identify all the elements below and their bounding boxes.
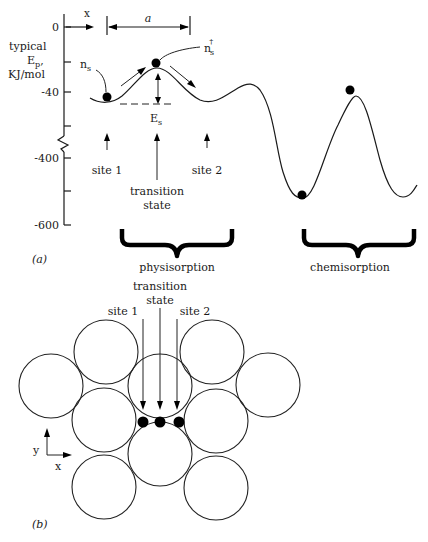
surface-atom bbox=[180, 320, 244, 384]
surface-atom bbox=[184, 456, 248, 520]
y-axis-title-line2: Ep, bbox=[27, 54, 44, 69]
potential-energy-curve bbox=[90, 68, 417, 198]
transition-state-marker: transition state bbox=[130, 133, 184, 212]
x-direction-arrow: x bbox=[66, 7, 94, 30]
arrow-up-icon bbox=[44, 428, 50, 437]
y-axis-label: y bbox=[32, 444, 40, 457]
transition-label-line2: state bbox=[146, 294, 174, 307]
y-axis: 0 -40 -400 -600 typical Ep, KJ/mol bbox=[8, 14, 71, 232]
adsorbate-leader-line bbox=[96, 70, 106, 92]
surface-atom bbox=[74, 320, 138, 384]
hop-arrow-up-shaft bbox=[121, 70, 142, 86]
arrow-down-icon bbox=[140, 401, 146, 410]
panel-b-label: (b) bbox=[32, 518, 48, 531]
adatom-site2 bbox=[174, 417, 185, 428]
arrow-down-icon bbox=[157, 401, 163, 410]
tick-label-minus40: -40 bbox=[41, 86, 59, 99]
surface-atom bbox=[72, 388, 136, 452]
tick-label-minus600: -600 bbox=[34, 219, 59, 232]
panel-a-label: (a) bbox=[32, 253, 47, 266]
arrow-right-icon bbox=[63, 452, 72, 458]
site1-label: site 1 bbox=[108, 305, 139, 318]
adatom-site1 bbox=[138, 417, 149, 428]
hop-arrow-down-shaft bbox=[170, 66, 192, 84]
tick-label-0: 0 bbox=[52, 21, 59, 34]
arrow-up-icon bbox=[155, 73, 161, 80]
chemisorption-barrier-dot bbox=[346, 86, 355, 95]
panel-a-energy-diagram: 0 -40 -400 -600 typical Ep, KJ/mol x a bbox=[8, 7, 417, 274]
adatom-transition bbox=[155, 417, 166, 428]
y-axis-title-line3: KJ/mol bbox=[8, 68, 45, 81]
arrow-up-icon bbox=[204, 133, 210, 141]
tick-label-minus400: -400 bbox=[34, 152, 59, 165]
site2-label: site 2 bbox=[180, 305, 211, 318]
adsorption-diffusion-figure: 0 -40 -400 -600 typical Ep, KJ/mol x a bbox=[0, 0, 428, 542]
lattice-spacing-indicator: a bbox=[107, 12, 190, 35]
lattice-spacing-label: a bbox=[145, 12, 152, 25]
transition-adsorbate-label: ns† bbox=[204, 37, 214, 57]
adsorbate-site1-dot bbox=[103, 93, 112, 102]
surface-atom bbox=[72, 455, 136, 519]
transition-label-line2: state bbox=[143, 199, 171, 212]
physisorption-label: physisorption bbox=[139, 261, 215, 274]
panel-b-surface-schematic: transition state site 1 site 2 bbox=[19, 280, 300, 531]
xy-axes-indicator: y x bbox=[32, 428, 72, 473]
surface-atom bbox=[184, 389, 248, 453]
transition-label-line1: transition bbox=[130, 185, 184, 198]
chemisorbed-dot bbox=[298, 191, 307, 200]
arrow-up-icon bbox=[104, 133, 110, 141]
site2-label: site 2 bbox=[192, 164, 223, 177]
arrow-down-icon bbox=[155, 97, 161, 104]
chemisorption-label: chemisorption bbox=[310, 261, 390, 274]
hop-arrow-up bbox=[121, 67, 146, 86]
surface-atom bbox=[128, 422, 192, 486]
arrow-right-icon bbox=[86, 24, 94, 30]
transition-leader-line bbox=[160, 47, 200, 60]
site-1-marker: site 1 bbox=[92, 133, 123, 177]
arrow-right-icon bbox=[180, 24, 189, 30]
adsorbate-transition-dot bbox=[152, 59, 161, 68]
surface-atom bbox=[236, 353, 300, 417]
transition-label-line1: transition bbox=[133, 280, 187, 293]
arrow-down-icon bbox=[174, 401, 180, 410]
barrier-label: Es bbox=[150, 112, 162, 127]
x-arrow-label: x bbox=[84, 7, 90, 19]
x-axis-label: x bbox=[55, 460, 62, 473]
site-2-marker: site 2 bbox=[192, 133, 223, 177]
y-axis-title-line1: typical bbox=[9, 40, 47, 53]
surface-atom bbox=[19, 354, 83, 418]
axis-break-icon bbox=[58, 136, 68, 152]
chemisorption-brace bbox=[304, 229, 414, 256]
physisorption-brace bbox=[122, 229, 232, 256]
arrow-left-icon bbox=[108, 24, 117, 30]
site1-label: site 1 bbox=[92, 164, 123, 177]
adsorbate-label: ns bbox=[80, 58, 91, 73]
site-arrows bbox=[140, 308, 180, 410]
arrow-up-icon bbox=[154, 133, 160, 141]
